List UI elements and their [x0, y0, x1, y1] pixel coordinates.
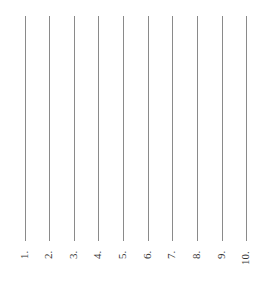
answer-line-9[interactable]	[222, 16, 223, 241]
answer-line-4[interactable]	[98, 16, 99, 241]
answer-line-3[interactable]	[74, 16, 75, 241]
answer-number-10: 10.	[240, 251, 251, 265]
answer-number-1: 1.	[19, 251, 30, 259]
answer-line-5[interactable]	[123, 16, 124, 241]
answer-line-7[interactable]	[172, 16, 173, 241]
answer-number-3: 3.	[68, 251, 79, 259]
answer-line-2[interactable]	[49, 16, 50, 241]
answer-line-8[interactable]	[197, 16, 198, 241]
answer-line-1[interactable]	[25, 16, 26, 241]
answer-number-6: 6.	[142, 251, 153, 259]
answer-number-8: 8.	[191, 251, 202, 259]
answer-number-7: 7.	[166, 251, 177, 259]
answer-number-9: 9.	[216, 251, 227, 259]
answer-number-4: 4.	[92, 251, 103, 259]
answer-line-6[interactable]	[148, 16, 149, 241]
answer-number-5: 5.	[117, 251, 128, 259]
answer-line-10[interactable]	[246, 16, 247, 241]
answer-number-2: 2.	[43, 251, 54, 259]
